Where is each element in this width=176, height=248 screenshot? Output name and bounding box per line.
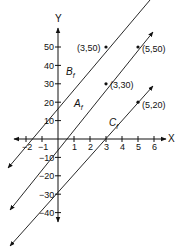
- y-tick-label: 20: [44, 98, 54, 108]
- line-a-label: Af: [73, 98, 84, 111]
- point-3-50: [104, 45, 107, 48]
- x-tick-label: 3: [104, 142, 109, 152]
- x-tick-label: 2: [88, 142, 93, 152]
- y-tick-label: 30: [44, 79, 54, 89]
- x-axis-label: X: [168, 133, 175, 144]
- x-tick-label: 4: [120, 142, 125, 152]
- point-label: (5,20): [142, 100, 166, 110]
- y-tick-labels: 50 40 30 20 10 −10 −20 −30 −40: [39, 42, 54, 218]
- point-label: (3,50): [77, 43, 101, 53]
- point-label: (3,30): [110, 80, 134, 90]
- point-label: (5,50): [142, 44, 166, 54]
- y-axis-label: Y: [55, 13, 62, 24]
- line-c-label: Cf: [109, 117, 119, 130]
- y-tick-label: 50: [44, 42, 54, 52]
- line-b-label: Bf: [66, 66, 76, 79]
- y-tick-label: −40: [39, 208, 54, 218]
- x-tick-label: 6: [152, 142, 157, 152]
- x-tick-label: −1: [38, 142, 48, 152]
- x-tick-label: 1: [72, 142, 77, 152]
- y-axis: Y: [55, 13, 62, 222]
- x-tick-label: −2: [22, 142, 32, 152]
- point-5-20: [136, 101, 139, 104]
- point-3-30: [104, 82, 107, 85]
- y-tick-label: 40: [44, 61, 54, 71]
- line-c: (5,20) Cf: [10, 86, 166, 246]
- chart-container: X Y −2 −1 1 2 3 4 5 6 50 40: [0, 0, 176, 248]
- x-tick-label: 5: [136, 142, 141, 152]
- point-5-50: [136, 45, 139, 48]
- y-tick-label: 10: [44, 116, 54, 126]
- x-tick-labels: −2 −1 1 2 3 4 5 6: [22, 142, 157, 152]
- chart-svg: X Y −2 −1 1 2 3 4 5 6 50 40: [0, 0, 176, 248]
- line-a: (3,30) (5,50) Af: [10, 32, 166, 210]
- y-tick-label: −30: [39, 190, 54, 200]
- y-tick-label: −20: [39, 171, 54, 181]
